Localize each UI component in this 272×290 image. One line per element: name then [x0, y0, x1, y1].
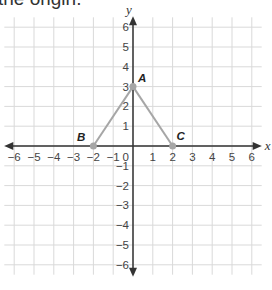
x-tick-label: 6: [249, 151, 255, 163]
y-tick-label: −3: [116, 199, 129, 211]
x-axis-left-arrow-icon: [4, 142, 13, 150]
point-label-c: C: [177, 130, 186, 142]
y-tick-label: −5: [116, 239, 129, 251]
x-tick-label: −5: [27, 151, 40, 163]
point-label-a: A: [137, 72, 146, 84]
y-tick-label: 1: [123, 120, 129, 132]
point-c: [169, 143, 176, 150]
y-axis-down-arrow-icon: [129, 268, 137, 277]
point-label-b: B: [77, 131, 85, 143]
axes: xy: [4, 2, 270, 276]
x-axis-right-arrow-icon: [253, 142, 262, 150]
x-tick-label: 4: [209, 151, 216, 163]
y-tick-label: −2: [116, 180, 129, 192]
y-axis-label: y: [124, 2, 132, 17]
y-tick-label: −4: [116, 219, 130, 231]
x-tick-label: 1: [150, 151, 156, 163]
y-tick-label: 4: [123, 61, 130, 73]
y-tick-label: −6: [116, 259, 129, 271]
x-tick-label: 5: [229, 151, 235, 163]
x-tick-label: 3: [189, 151, 195, 163]
x-tick-label: −6: [8, 151, 21, 163]
coordinate-plane: xy −6−5−4−3−2−1123456654321−1−2−3−4−5−60…: [0, 0, 272, 290]
y-tick-label: 5: [123, 41, 129, 53]
y-tick-label: 3: [123, 81, 129, 93]
point-b: [90, 143, 97, 150]
x-tick-label: 2: [169, 151, 175, 163]
x-tick-label: −3: [67, 151, 80, 163]
x-tick-label: −2: [87, 151, 100, 163]
y-tick-label: 6: [123, 21, 129, 33]
x-tick-label: −4: [47, 151, 61, 163]
point-a: [130, 83, 137, 90]
y-axis-up-arrow-icon: [129, 16, 137, 25]
origin-label: 0: [123, 151, 129, 163]
x-axis-label: x: [264, 138, 271, 153]
